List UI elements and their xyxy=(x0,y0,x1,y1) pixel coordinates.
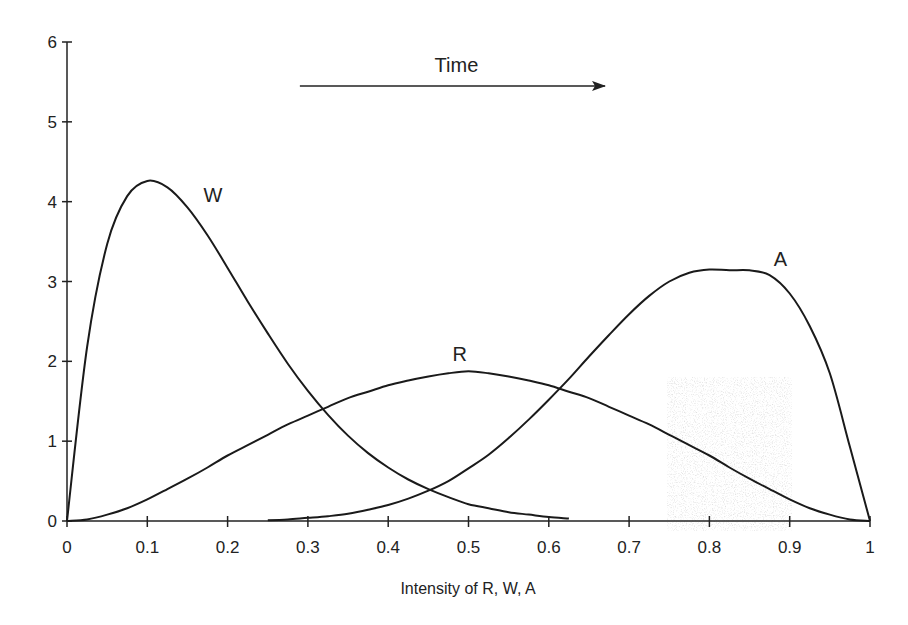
y-tick-label: 4 xyxy=(48,193,57,212)
y-tick-label: 3 xyxy=(48,273,57,292)
time-label: Time xyxy=(435,54,479,76)
x-tick-label: 0.1 xyxy=(135,538,159,557)
x-tick-label: 0.2 xyxy=(216,538,240,557)
y-tick-label: 2 xyxy=(48,352,57,371)
x-tick-label: 0.6 xyxy=(537,538,561,557)
x-axis-title: Intensity of R, W, A xyxy=(400,580,535,597)
x-tick-label: 0 xyxy=(62,538,71,557)
y-tick-label: 0 xyxy=(48,512,57,531)
chart: 0123456 00.10.20.30.40.50.60.70.80.91 WR… xyxy=(0,0,908,625)
series-label-w: W xyxy=(204,184,223,206)
series-label-r: R xyxy=(452,343,466,365)
y-tick-label: 1 xyxy=(48,432,57,451)
x-tick-label: 0.3 xyxy=(296,538,320,557)
scan-noise-patch xyxy=(667,377,791,531)
x-tick-label: 0.7 xyxy=(617,538,641,557)
y-axis-ticks: 0123456 xyxy=(48,33,72,531)
x-tick-label: 0.9 xyxy=(778,538,802,557)
x-tick-label: 0.5 xyxy=(457,538,481,557)
x-tick-label: 0.4 xyxy=(376,538,400,557)
curve-w xyxy=(67,181,569,521)
x-tick-label: 1 xyxy=(865,538,874,557)
series-labels: WRA xyxy=(204,184,788,366)
y-tick-label: 6 xyxy=(48,33,57,52)
series-label-a: A xyxy=(774,248,788,270)
y-tick-label: 5 xyxy=(48,113,57,132)
time-annotation: Time xyxy=(300,54,605,86)
scan-noise-region xyxy=(667,377,791,531)
x-tick-label: 0.8 xyxy=(698,538,722,557)
